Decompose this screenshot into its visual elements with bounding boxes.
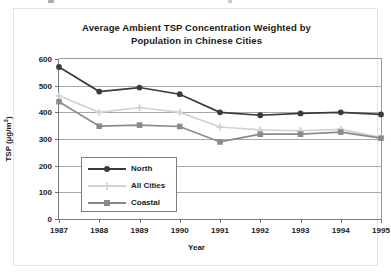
chart-title-line-1: Average Ambient TSP Concentration Weight… (14, 22, 379, 35)
chart-figure: Average Ambient TSP Concentration Weight… (13, 8, 378, 266)
y-axis-tick-label: 400 (39, 108, 52, 117)
y-axis-title-close: ) (4, 116, 13, 119)
data-point-square (56, 99, 62, 105)
x-axis-tick-mark (99, 219, 100, 223)
data-point-circle (137, 85, 143, 91)
data-point-circle (56, 64, 62, 70)
series-line (59, 102, 381, 142)
x-axis-title: Year (14, 243, 379, 252)
x-axis-tick-label: 1995 (372, 226, 390, 235)
x-axis-tick-mark (180, 219, 181, 223)
series-line (59, 96, 381, 138)
data-point-plus (217, 124, 224, 131)
data-point-circle (96, 89, 102, 95)
data-point-circle (378, 112, 384, 118)
y-axis-tick-label: 0 (48, 215, 52, 224)
data-point-plus (136, 104, 143, 111)
y-axis-title-exponent: 3 (3, 119, 9, 122)
y-axis-tick-label: 600 (39, 55, 52, 64)
x-axis-tick-label: 1987 (50, 226, 68, 235)
clipped-glyph-right (228, 0, 232, 3)
legend-item-coastal: Coastal (82, 196, 176, 209)
series-all-cities (56, 92, 385, 140)
x-axis-tick-label: 1994 (332, 226, 350, 235)
y-axis-title: TSP (µg/m3) (3, 116, 14, 161)
chart-legend: North All Cities Coastal (81, 157, 177, 212)
plot-area: 0100200300400500600 19871988198919901991… (58, 59, 381, 220)
series-line (59, 67, 381, 115)
legend-label-all-cities: All Cities (131, 181, 165, 190)
x-axis-tick-label: 1990 (171, 226, 189, 235)
x-axis-tick-label: 1989 (131, 226, 149, 235)
legend-swatch-all-cities (88, 179, 126, 192)
legend-item-north: North (82, 162, 176, 175)
x-axis-tick-mark (260, 219, 261, 223)
x-axis-tick-mark (301, 219, 302, 223)
y-axis-tick-label: 300 (39, 135, 52, 144)
y-axis-title-main: TSP (µg/m (4, 122, 13, 161)
series-coastal (56, 99, 384, 145)
data-point-square (298, 131, 304, 137)
data-point-circle (298, 111, 304, 117)
chart-title: Average Ambient TSP Concentration Weight… (14, 22, 379, 47)
series-north (56, 64, 384, 118)
y-axis-tick-label: 200 (39, 161, 52, 170)
x-axis-tick-label: 1992 (251, 226, 269, 235)
y-axis-tick-label: 500 (39, 81, 52, 90)
data-point-square (96, 123, 102, 129)
clipped-top-edge (0, 0, 391, 4)
y-axis-tick-label: 100 (39, 188, 52, 197)
clipped-glyph-left (48, 0, 54, 3)
data-point-square (137, 122, 143, 128)
legend-label-north: North (131, 164, 152, 173)
data-point-square (217, 139, 223, 145)
data-point-plus (176, 109, 183, 116)
data-point-circle (217, 109, 223, 115)
x-axis-tick-label: 1993 (292, 226, 310, 235)
legend-item-all-cities: All Cities (82, 179, 176, 192)
data-point-square (257, 131, 263, 137)
chart-title-line-2: Population in Chinese Cities (14, 35, 379, 48)
x-axis-tick-mark (341, 219, 342, 223)
x-axis-tick-mark (381, 219, 382, 223)
x-axis-tick-label: 1988 (90, 226, 108, 235)
data-point-circle (338, 109, 344, 115)
data-point-square (378, 135, 384, 141)
x-axis-tick-mark (140, 219, 141, 223)
legend-swatch-coastal (88, 196, 126, 209)
data-point-plus (96, 109, 103, 116)
data-point-square (338, 129, 344, 135)
x-axis-tick-mark (220, 219, 221, 223)
x-axis-tick-label: 1991 (211, 226, 229, 235)
x-axis-tick-mark (59, 219, 60, 223)
data-point-square (177, 124, 183, 130)
data-point-circle (177, 91, 183, 97)
legend-swatch-north (88, 162, 126, 175)
legend-label-coastal: Coastal (131, 198, 160, 207)
plus-icon (103, 181, 112, 190)
data-point-plus (56, 92, 63, 99)
data-point-circle (257, 112, 263, 118)
